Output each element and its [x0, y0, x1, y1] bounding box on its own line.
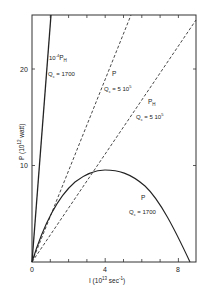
series-10e-4-ph-qc1700	[32, 15, 51, 262]
y-tick-label-10: 10	[20, 162, 28, 169]
series-p-qc1700	[32, 170, 190, 262]
annotation-ph-dashed: PH	[148, 98, 156, 107]
series-p-qc5e5	[32, 15, 131, 262]
chart: 0 4 8 10 20 I (1013 sec-1) P (1012 watt)…	[0, 0, 209, 297]
x-axis-label: I (1013 sec-1)	[89, 276, 125, 285]
annotation-10e-4-ph: 10-4PH	[49, 53, 67, 63]
annotation-qc5e5-p: Qc = 5 105	[104, 84, 132, 94]
y-tick-label-20: 20	[20, 66, 28, 73]
y-axis-label: P (1012 watt)	[17, 124, 26, 160]
x-tick-label-0: 0	[30, 266, 34, 273]
x-axis-ticks	[50, 15, 178, 262]
annotation-qc1700-steep: Qc = 1700	[48, 71, 76, 79]
y-axis-ticks	[32, 69, 196, 166]
x-tick-label-4: 4	[103, 266, 107, 273]
annotation-p-curve: P	[141, 194, 145, 201]
annotation-p-dashed: P	[112, 70, 116, 77]
annotation-qc5e5-ph: Qc = 5 105	[136, 112, 164, 122]
annotation-qc1700-curve: Qc = 1700	[129, 209, 157, 217]
x-tick-label-8: 8	[176, 266, 180, 273]
